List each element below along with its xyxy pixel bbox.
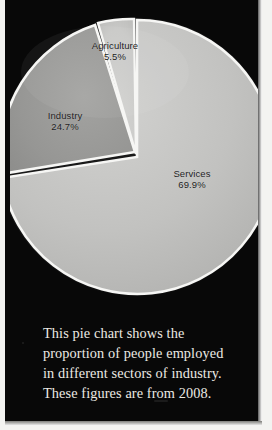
page-speck-2 [154,400,168,402]
pie-chart: Agriculture 5.5% Industry 24.7% Services… [5,2,258,302]
caption-line-4: These figures are from 2008. [43,383,253,403]
pie-label-industry-name: Industry [28,110,102,121]
page-speck [22,342,24,344]
caption-line-3: in different sectors of industry. [43,363,253,383]
panel-bottom-shadow [5,421,262,426]
pie-label-industry: Industry 24.7% [28,110,102,132]
page-root: Agriculture 5.5% Industry 24.7% Services… [0,0,272,430]
pie-label-agriculture: Agriculture 5.5% [74,40,156,62]
pie-label-industry-value: 24.7% [28,121,102,132]
pie-label-agriculture-value: 5.5% [74,51,156,62]
caption-paragraph: This pie chart shows the proportion of p… [43,323,253,403]
panel-right-shadow [258,0,262,421]
caption-line-2: proportion of people employed [43,343,253,363]
chart-caption: This pie chart shows the proportion of p… [43,323,253,403]
pie-label-agriculture-name: Agriculture [74,40,156,51]
content-panel: Agriculture 5.5% Industry 24.7% Services… [5,0,258,421]
pie-label-services-value: 69.9% [155,179,229,190]
pie-label-services-name: Services [155,168,229,179]
caption-line-1: This pie chart shows the [43,323,253,343]
pie-label-services: Services 69.9% [155,168,229,190]
